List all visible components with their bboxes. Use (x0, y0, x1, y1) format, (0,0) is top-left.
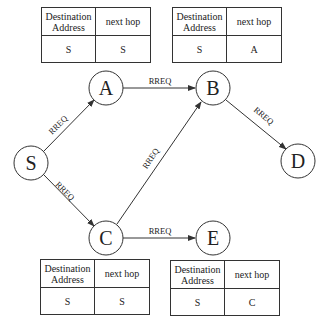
node-c: C (89, 221, 123, 255)
table-cell-next-hop: C (225, 289, 280, 316)
table-cell-next-hop: S (95, 288, 150, 315)
node-label-a: A (99, 77, 114, 99)
routing-table-c: Destination Address next hop S S (40, 259, 150, 315)
node-label-b: B (206, 77, 219, 99)
edge-c-b: RREQ (117, 102, 201, 224)
edge-label-s-c: RREQ (54, 179, 77, 202)
table-cell-destination: S (42, 36, 96, 63)
edge-label-b-d: RREQ (252, 105, 276, 127)
edge-a-b: RREQ (123, 76, 195, 88)
table-header-next-hop: next hop (225, 261, 280, 289)
edge-label-c-b: RREQ (140, 146, 161, 170)
table-cell-next-hop: S (96, 36, 151, 63)
edge-s-c: RREQ (44, 175, 94, 226)
table-header-next-hop: next hop (227, 8, 282, 36)
routing-table-a: Destination Address next hop S S (41, 7, 151, 63)
table-header-destination: Destination Address (41, 260, 95, 288)
edge-label-c-e: RREQ (149, 226, 172, 236)
node-b: B (196, 71, 230, 105)
table-header-next-hop: next hop (95, 260, 150, 288)
table-header-destination: Destination Address (42, 8, 96, 36)
edge-c-e: RREQ (123, 226, 195, 238)
edge-b-d: RREQ (226, 100, 286, 149)
table-cell-destination: S (173, 36, 227, 63)
node-s: S (14, 146, 48, 180)
routing-table-b: Destination Address next hop S A (172, 7, 282, 63)
node-label-c: C (99, 227, 112, 249)
node-a: A (89, 71, 123, 105)
edge-label-a-b: RREQ (149, 76, 172, 86)
table-header-next-hop: next hop (96, 8, 151, 36)
table-cell-destination: S (41, 288, 95, 315)
node-d: D (281, 144, 315, 178)
node-e: E (196, 221, 230, 255)
edge-label-s-a: RREQ (46, 113, 69, 136)
table-header-destination: Destination Address (173, 8, 227, 36)
table-cell-next-hop: A (227, 36, 282, 63)
table-header-destination: Destination Address (171, 261, 225, 289)
table-cell-destination: S (171, 289, 225, 316)
node-label-d: D (291, 150, 305, 172)
node-label-e: E (207, 227, 219, 249)
routing-table-e: Destination Address next hop S C (170, 260, 280, 316)
node-label-s: S (25, 152, 36, 174)
edge-s-a: RREQ (44, 100, 94, 151)
